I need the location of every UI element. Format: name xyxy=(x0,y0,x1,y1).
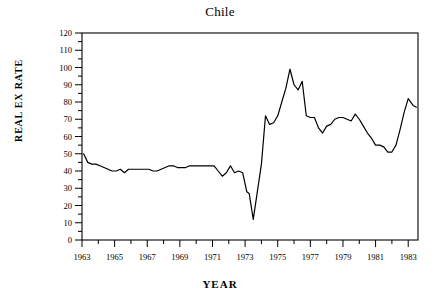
data-line xyxy=(84,69,417,219)
y-axis-label: REAL EX RATE xyxy=(13,21,24,181)
x-tick-label: 1979 xyxy=(334,252,351,262)
x-tick-label: 1977 xyxy=(302,252,319,262)
x-tick-label: 1965 xyxy=(106,252,123,262)
x-tick-label: 1969 xyxy=(171,252,188,262)
y-tick-label: 60 xyxy=(64,132,73,142)
data-series-group xyxy=(84,69,417,219)
y-tick-label: 70 xyxy=(64,114,73,124)
y-tick-label: 100 xyxy=(59,63,72,73)
chart-figure: Chile REAL EX RATE YEAR 0102030405060708… xyxy=(0,0,440,302)
x-tick-label: 1981 xyxy=(367,252,384,262)
y-tick-label: 10 xyxy=(64,218,73,228)
chart-title: Chile xyxy=(0,4,440,20)
axes-frame xyxy=(82,33,418,240)
y-tick-label: 40 xyxy=(64,166,73,176)
x-tick-label: 1975 xyxy=(269,252,286,262)
y-tick-label: 120 xyxy=(59,28,72,38)
x-axis-label: YEAR xyxy=(0,278,440,290)
x-tick-label: 1973 xyxy=(237,252,254,262)
x-tick-label: 1983 xyxy=(400,252,417,262)
plot-area: 0102030405060708090100110120 19631965196… xyxy=(0,0,440,302)
x-tick-label: 1967 xyxy=(139,252,156,262)
y-tick-label: 0 xyxy=(68,235,72,245)
y-tick-label: 20 xyxy=(64,201,73,211)
y-tick-label: 90 xyxy=(64,80,73,90)
y-tick-label: 30 xyxy=(64,183,73,193)
x-axis-ticks: 1963196519671969197119731975197719791981… xyxy=(74,240,417,262)
y-tick-label: 110 xyxy=(60,45,72,55)
y-axis-ticks: 0102030405060708090100110120 xyxy=(59,28,82,245)
x-tick-label: 1963 xyxy=(74,252,91,262)
x-tick-label: 1971 xyxy=(204,252,221,262)
y-tick-label: 80 xyxy=(64,97,73,107)
y-tick-label: 50 xyxy=(64,149,73,159)
